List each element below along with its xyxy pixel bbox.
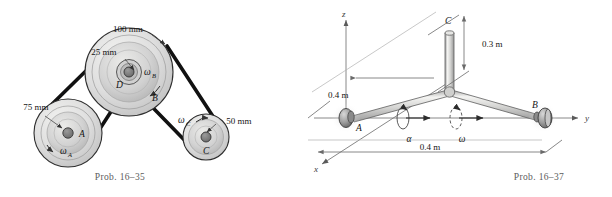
pulley-a-axle xyxy=(63,128,73,138)
label-point-d: D xyxy=(115,80,123,90)
pulley-c-axle xyxy=(201,132,211,142)
omega-a-glyph: ω xyxy=(60,146,67,156)
dim-04-length-ext-right xyxy=(546,140,562,152)
label-0-3m: 0.3 m xyxy=(482,39,503,49)
figure-page: 100 mm 25 mm 75 mm 50 mm A B C D ω A ω B… xyxy=(0,0,612,197)
shaft-cap-c xyxy=(445,31,454,35)
label-axis-z: z xyxy=(341,9,346,19)
omega-b-subscript: B xyxy=(152,72,156,79)
belt-d-c-upper xyxy=(167,46,216,121)
label-omega-c: ω C xyxy=(178,115,191,127)
shaft-arm-a xyxy=(352,89,453,122)
label-point-c: C xyxy=(445,16,452,26)
rotating-shaft-diagram: 0.3 m 0.4 m 0.4 m z y x A B C α ω xyxy=(306,0,612,197)
label-point-b: B xyxy=(532,100,538,110)
guide-top-oblique xyxy=(312,12,436,92)
label-point-c: C xyxy=(203,146,210,156)
belt-pulley-diagram: 100 mm 25 mm 75 mm 50 mm A B C D ω A ω B… xyxy=(0,0,306,197)
figure-prob-16-37: 0.3 m 0.4 m 0.4 m z y x A B C α ω Prob. xyxy=(306,0,612,197)
label-25mm: 25 mm xyxy=(91,47,116,57)
dim-03-ext-top xyxy=(428,15,459,35)
label-axis-y: y xyxy=(584,113,589,123)
shaft-joint xyxy=(444,87,454,97)
label-point-b: B xyxy=(152,93,158,103)
omega-c-subscript: C xyxy=(186,120,191,127)
label-0-4m-length: 0.4 m xyxy=(420,142,441,152)
label-0-4m-depth: 0.4 m xyxy=(328,90,349,100)
pulley-b xyxy=(85,28,173,116)
label-75mm: 75 mm xyxy=(23,102,48,112)
bearing-a-collar xyxy=(348,111,354,123)
figure-prob-16-35: 100 mm 25 mm 75 mm 50 mm A B C D ω A ω B… xyxy=(0,0,306,197)
label-point-a: A xyxy=(355,123,362,133)
caption-prob-16-37: Prob. 16–37 xyxy=(306,172,612,182)
caption-prob-16-35: Prob. 16–35 xyxy=(0,172,240,182)
label-100mm: 100 mm xyxy=(113,24,143,34)
dim-04-depth-ext xyxy=(308,101,330,118)
label-point-a: A xyxy=(78,129,85,139)
label-omega: ω xyxy=(459,134,466,144)
shaft-arm-b xyxy=(447,89,536,120)
omega-c-glyph: ω xyxy=(178,115,185,125)
bearing-b-face xyxy=(545,109,551,127)
omega-a-subscript: A xyxy=(67,151,72,158)
label-50mm: 50 mm xyxy=(226,116,251,126)
omega-b-glyph: ω xyxy=(144,67,151,77)
label-alpha: α xyxy=(407,134,413,144)
shaft-arm-c xyxy=(445,33,454,92)
shaft-assembly xyxy=(352,31,536,122)
